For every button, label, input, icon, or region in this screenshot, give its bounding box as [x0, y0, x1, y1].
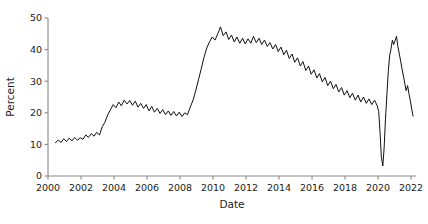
- x-tick-label: 2022: [399, 182, 423, 193]
- y-tick-label: 10: [30, 139, 42, 150]
- x-tick-label: 2008: [168, 182, 192, 193]
- series-layer: [55, 27, 413, 166]
- y-axis-title: Percent: [4, 77, 16, 117]
- x-tick-label: 2020: [366, 182, 390, 193]
- x-tick-label: 2018: [333, 182, 357, 193]
- x-tick-label: 2002: [69, 182, 93, 193]
- x-tick-label: 2014: [267, 182, 291, 193]
- chart-figure: 0102030405020002002200420062008201020122…: [0, 0, 428, 224]
- x-tick-label: 2006: [135, 182, 159, 193]
- y-tick-label: 30: [30, 76, 42, 87]
- y-tick-label: 40: [30, 44, 42, 55]
- x-tick-label: 2012: [234, 182, 258, 193]
- y-tick-label: 20: [30, 107, 42, 118]
- x-tick-label: 2010: [201, 182, 225, 193]
- axis-labels-layer: 0102030405020002002200420062008201020122…: [4, 12, 423, 210]
- y-tick-label: 0: [36, 170, 42, 181]
- line-chart: 0102030405020002002200420062008201020122…: [0, 0, 428, 224]
- data-line: [55, 27, 413, 166]
- x-tick-label: 2000: [36, 182, 60, 193]
- x-tick-label: 2016: [300, 182, 324, 193]
- y-tick-label: 50: [30, 12, 42, 23]
- x-axis-title: Date: [219, 198, 244, 210]
- axes-layer: [45, 18, 417, 180]
- x-tick-label: 2004: [102, 182, 126, 193]
